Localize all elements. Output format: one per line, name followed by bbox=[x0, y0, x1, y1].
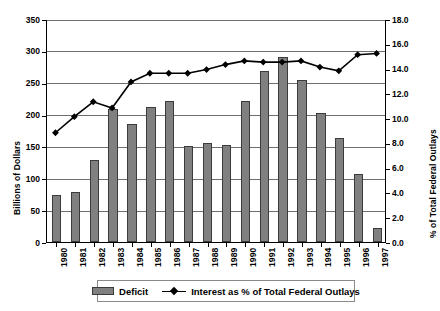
x-axis-tick-mark bbox=[378, 243, 379, 247]
x-axis-tick-label: 1993 bbox=[305, 248, 315, 267]
chart-container: Billions of Dollars % of Total Federal O… bbox=[0, 0, 440, 311]
y-axis-left-tick-mark bbox=[42, 116, 46, 117]
x-axis-tick-label: 1991 bbox=[267, 248, 277, 267]
x-axis-tick-mark bbox=[208, 243, 209, 247]
bar bbox=[241, 101, 250, 242]
bar bbox=[278, 57, 287, 242]
x-axis-tick-mark bbox=[302, 243, 303, 247]
bar-swatch-icon bbox=[92, 287, 114, 295]
y-axis-right-tick-mark bbox=[386, 243, 390, 244]
y-axis-left-tick-mark bbox=[42, 147, 46, 148]
x-axis-tick-label: 1997 bbox=[380, 248, 390, 267]
x-axis-tick-mark bbox=[340, 243, 341, 247]
legend-label-deficit: Deficit bbox=[119, 286, 148, 297]
x-axis-tick-mark bbox=[75, 243, 76, 247]
y-axis-left-tick-label: 200 bbox=[6, 111, 40, 120]
x-axis-tick-label: 1987 bbox=[191, 248, 201, 267]
x-axis-tick-label: 1995 bbox=[342, 248, 352, 267]
bar bbox=[108, 109, 117, 242]
y-axis-left-tick-label: 350 bbox=[6, 16, 40, 25]
y-axis-left-tick-mark bbox=[42, 211, 46, 212]
y-axis-right-tick-label: 14.0 bbox=[392, 65, 426, 74]
gridline bbox=[47, 20, 385, 21]
x-axis-tick-mark bbox=[113, 243, 114, 247]
gridline bbox=[47, 51, 385, 52]
x-axis-tick-label: 1982 bbox=[97, 248, 107, 267]
x-axis-tick-label: 1985 bbox=[153, 248, 163, 267]
y-axis-left-tick-label: 150 bbox=[6, 143, 40, 152]
x-axis-tick-mark bbox=[226, 243, 227, 247]
bar bbox=[90, 160, 99, 242]
y-axis-left-tick-label: 100 bbox=[6, 175, 40, 184]
y-axis-right-tick-mark bbox=[386, 119, 390, 120]
x-axis-tick-mark bbox=[359, 243, 360, 247]
x-axis-tick-mark bbox=[321, 243, 322, 247]
x-axis-tick-label: 1988 bbox=[210, 248, 220, 267]
y-axis-left-tick-label: 300 bbox=[6, 47, 40, 56]
x-axis-tick-label: 1996 bbox=[361, 248, 371, 267]
y-axis-left-tick-mark bbox=[42, 52, 46, 53]
x-axis-tick-mark bbox=[264, 243, 265, 247]
bar bbox=[373, 228, 382, 242]
plot-area bbox=[46, 20, 386, 243]
bar bbox=[71, 192, 80, 242]
y-axis-right-tick-label: 16.0 bbox=[392, 40, 426, 49]
y-axis-right-tick-label: 10.0 bbox=[392, 115, 426, 124]
gridline bbox=[47, 115, 385, 116]
bar bbox=[316, 113, 325, 242]
y-axis-right-tick-mark bbox=[386, 45, 390, 46]
bar bbox=[52, 195, 61, 242]
legend-item-interest: Interest as % of Total Federal Outlays bbox=[162, 286, 360, 297]
y-axis-right-title: % of Total Federal Outlays bbox=[428, 129, 438, 238]
y-axis-left-tick-mark bbox=[42, 243, 46, 244]
x-axis-tick-label: 1981 bbox=[78, 248, 88, 267]
x-axis-tick-mark bbox=[283, 243, 284, 247]
y-axis-right-tick-label: 18.0 bbox=[392, 16, 426, 25]
x-axis-tick-mark bbox=[56, 243, 57, 247]
y-axis-left-tick-label: 50 bbox=[6, 207, 40, 216]
x-axis-tick-label: 1992 bbox=[286, 248, 296, 267]
bar bbox=[165, 101, 174, 242]
x-axis-tick-label: 1994 bbox=[323, 248, 333, 267]
y-axis-left-tick-label: 0 bbox=[6, 239, 40, 248]
x-axis-tick-mark bbox=[132, 243, 133, 247]
x-axis-tick-label: 1990 bbox=[248, 248, 258, 267]
bar bbox=[297, 80, 306, 242]
y-axis-right-tick-label: 12.0 bbox=[392, 90, 426, 99]
x-axis-tick-mark bbox=[170, 243, 171, 247]
legend-item-deficit: Deficit bbox=[92, 286, 148, 297]
x-axis-tick-mark bbox=[189, 243, 190, 247]
y-axis-right-tick-label: 0.0 bbox=[392, 239, 426, 248]
x-axis-tick-label: 1984 bbox=[135, 248, 145, 267]
x-axis-tick-label: 1986 bbox=[172, 248, 182, 267]
gridline bbox=[47, 83, 385, 84]
bar bbox=[203, 143, 212, 242]
y-axis-right-tick-label: 2.0 bbox=[392, 214, 426, 223]
y-axis-left-tick-mark bbox=[42, 20, 46, 21]
x-axis-tick-label: 1983 bbox=[116, 248, 126, 267]
bar bbox=[127, 124, 136, 242]
y-axis-right-tick-mark bbox=[386, 20, 390, 21]
x-axis-tick-mark bbox=[151, 243, 152, 247]
bar bbox=[335, 138, 344, 242]
y-axis-right-tick-mark bbox=[386, 193, 390, 194]
bar bbox=[260, 71, 269, 242]
y-axis-right-tick-mark bbox=[386, 169, 390, 170]
x-axis-tick-mark bbox=[245, 243, 246, 247]
y-axis-left-tick-mark bbox=[42, 179, 46, 180]
bar bbox=[354, 174, 363, 242]
y-axis-right-tick-mark bbox=[386, 218, 390, 219]
x-axis-tick-mark bbox=[94, 243, 95, 247]
line-diamond-swatch-icon bbox=[162, 287, 186, 296]
x-axis-tick-label: 1980 bbox=[59, 248, 69, 267]
bar bbox=[146, 107, 155, 242]
bar bbox=[222, 145, 231, 242]
y-axis-left-tick-mark bbox=[42, 84, 46, 85]
y-axis-right-tick-mark bbox=[386, 94, 390, 95]
y-axis-right-tick-mark bbox=[386, 144, 390, 145]
x-axis-tick-label: 1989 bbox=[229, 248, 239, 267]
y-axis-right-tick-mark bbox=[386, 70, 390, 71]
bar bbox=[184, 146, 193, 242]
y-axis-right-tick-label: 6.0 bbox=[392, 164, 426, 173]
chart-legend: Deficit Interest as % of Total Federal O… bbox=[97, 280, 355, 302]
